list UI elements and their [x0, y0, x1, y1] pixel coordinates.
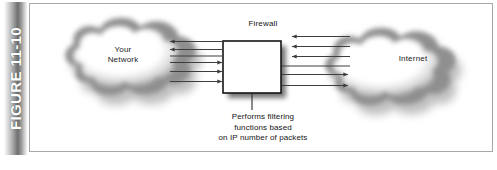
figure-number-label: FIGURE 11-10	[4, 2, 27, 155]
firewall-box	[223, 41, 286, 98]
figure-number-tab: FIGURE 11-10	[4, 2, 27, 155]
firewall-caption-text: Performs filtering functions based on IP…	[185, 112, 341, 144]
figure-panel: Firewall Your Network Internet Performs …	[29, 3, 493, 152]
firewall-title-label: Firewall	[228, 19, 298, 28]
figure-container: FIGURE 11-10	[0, 0, 497, 170]
internet-label: Internet	[382, 54, 444, 64]
your-network-label: Your Network	[92, 45, 154, 65]
internet-cloud	[325, 28, 461, 115]
